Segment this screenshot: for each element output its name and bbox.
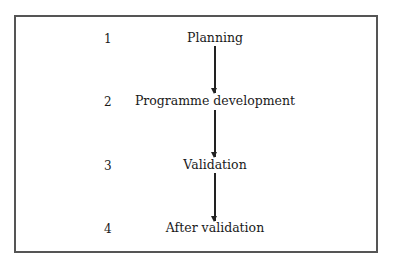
step-label-programme-development: Programme development <box>135 93 295 108</box>
step-label-planning: Planning <box>187 30 243 45</box>
arrow-down-icon <box>214 46 216 93</box>
arrow-down-icon <box>214 173 216 221</box>
step-number-2: 2 <box>104 95 112 109</box>
step-label-validation: Validation <box>183 157 246 172</box>
step-number-3: 3 <box>104 159 112 173</box>
step-label-after-validation: After validation <box>166 220 264 235</box>
arrow-down-icon <box>214 110 216 157</box>
diagram-frame <box>14 15 378 253</box>
step-number-1: 1 <box>104 32 112 46</box>
step-number-4: 4 <box>104 222 112 236</box>
